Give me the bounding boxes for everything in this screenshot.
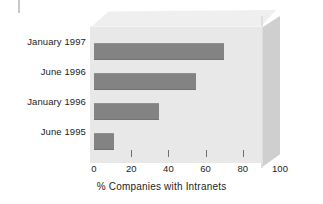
x-axis-tick [206,150,207,157]
bar-row [94,43,224,60]
bar-chart-figure: January 1997 June 1996 January 1996 June… [0,0,323,204]
category-label-2: January 1996 [27,96,86,107]
x-tick-label-20: 20 [126,163,137,174]
x-axis-tick [131,150,132,157]
x-axis-title: % Companies with Intranets [0,181,323,192]
category-label-0: January 1997 [27,36,86,47]
x-axis-tick [243,150,244,157]
category-label-3: June 1995 [41,126,86,137]
plot-slab [90,10,290,162]
x-axis-tick-labels: 0 20 40 60 80 100 [0,163,323,179]
slab-right-face [261,16,280,168]
x-tick-label-0: 0 [91,163,96,174]
bar-row [94,103,159,120]
x-tick-label-40: 40 [163,163,174,174]
plot-area [94,27,262,163]
bar-row [94,73,196,90]
bar-january-1997 [94,43,224,60]
bar-row [94,133,114,150]
x-tick-label-80: 80 [238,163,249,174]
bar-june-1995 [94,133,114,150]
category-axis-labels: January 1997 June 1996 January 1996 June… [0,10,86,162]
x-axis-tick [168,150,169,157]
bar-june-1996 [94,73,196,90]
plot-face [90,26,262,163]
x-tick-label-60: 60 [200,163,211,174]
x-tick-label-100: 100 [272,163,288,174]
category-label-1: June 1996 [41,66,86,77]
bar-january-1996 [94,103,159,120]
